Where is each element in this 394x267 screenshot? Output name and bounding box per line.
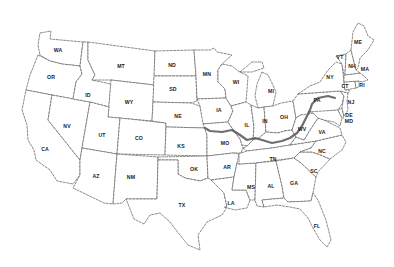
state-label-tx: TX [179,202,186,208]
state-label-mn: MN [203,71,211,77]
state-label-nj: NJ [348,99,355,105]
state-label-ny: NY [326,74,334,80]
state-label-oh: OH [280,114,288,120]
state-ia [197,98,233,124]
state-label-ne: NE [174,113,182,119]
state-label-mi: MI [268,88,274,94]
state-label-il: IL [245,122,251,128]
state-label-ct: CT [341,83,349,89]
state-label-az: AZ [92,173,100,179]
state-label-wa: WA [54,47,63,53]
state-label-vt: VT [337,54,345,60]
state-label-ut: UT [98,132,106,138]
state-label-mt: MT [117,63,125,69]
state-label-al: AL [267,183,275,189]
state-label-pa: PA [313,97,320,103]
state-label-or: OR [47,74,55,80]
state-label-tn: TN [269,156,276,162]
state-label-ms: MS [247,184,255,190]
state-label-wi: WI [233,79,240,85]
state-label-nm: NM [127,174,135,180]
state-label-ok: OK [190,166,198,172]
state-label-sc: SC [310,168,318,174]
state-label-sd: SD [169,86,177,92]
state-label-md: MD [345,118,353,124]
state-label-nh: NH [348,63,356,69]
state-label-ar: AR [223,164,231,170]
state-label-ks: KS [177,143,185,149]
state-label-ma: MA [361,66,369,72]
state-label-ri: RI [359,82,365,88]
state-label-nc: NC [318,148,326,154]
state-label-in: IN [262,118,268,124]
state-ks [165,127,207,156]
state-label-id: ID [85,92,91,98]
state-nm [113,154,158,204]
state-label-co: CO [135,135,143,141]
state-label-nd: ND [168,62,176,68]
state-boundaries [22,23,374,250]
state-label-wy: WY [125,99,134,105]
state-label-mo: MO [221,140,230,146]
state-label-ca: CA [41,146,49,152]
state-label-la: LA [227,200,234,206]
state-label-va: VA [318,129,325,135]
state-label-fl: FL [314,223,321,229]
us-states-map: WAORCANVIDMTWYUTCOAZNMNDSDNEKSOKTXMNIAMO… [0,0,394,267]
state-label-ia: IA [216,107,222,113]
state-label-me: ME [354,39,362,45]
state-label-nv: NV [63,123,71,129]
state-label-wv: WV [298,126,307,132]
state-label-ga: GA [290,180,298,186]
